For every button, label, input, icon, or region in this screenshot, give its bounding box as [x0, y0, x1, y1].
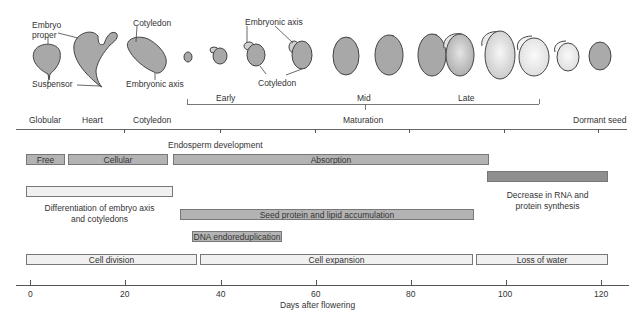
- x-tick: [221, 280, 222, 285]
- x-tick-label: 20: [120, 290, 129, 299]
- early-embryo-3: [292, 41, 312, 69]
- label-early: Early: [216, 94, 235, 103]
- bar-differentiation: [26, 186, 173, 197]
- mid-embryo-2: [375, 35, 403, 75]
- stage-tick: [315, 129, 316, 133]
- label-suspensor: Suspensor: [32, 80, 73, 89]
- late-embryo-2: [485, 31, 515, 79]
- x-tick: [411, 280, 412, 285]
- x-tick-label: 100: [498, 290, 512, 299]
- stage-globular: Globular: [29, 116, 61, 125]
- label-differentiation: Differentiation of embryo axis and cotyl…: [26, 203, 173, 225]
- x-tick-label: 120: [594, 290, 608, 299]
- label-decrease-rna-protein: Decrease in RNA and protein synthesis: [487, 190, 608, 212]
- embryo-illustrations: [0, 0, 642, 110]
- bar-seed-protein-lipid: Seed protein and lipid accumulation: [180, 209, 474, 220]
- bracket-right-end: [539, 99, 540, 104]
- bar-decrease-rna-protein: [487, 171, 608, 182]
- heart-embryo: [74, 32, 117, 87]
- endosperm-title: Endosperm development: [168, 141, 263, 150]
- early-embryo-small: [184, 52, 192, 62]
- mid-embryo-1: [333, 37, 359, 75]
- stage-tick: [504, 129, 505, 133]
- globular-embryo: [33, 44, 60, 80]
- label-mid: Mid: [357, 94, 371, 103]
- bar-cell-expansion: Cell expansion: [200, 254, 473, 265]
- stage-tick: [598, 129, 599, 133]
- early-embryo-2: [247, 44, 265, 66]
- label-embryonic-axis-1: Embryonic axis: [126, 80, 184, 89]
- stage-cotyledon: Cotyledon: [133, 116, 171, 125]
- early-embryo-1: [213, 48, 227, 64]
- x-tick: [125, 280, 126, 285]
- label-cotyledon-1: Cotyledon: [133, 19, 171, 28]
- bar-absorption: Absorption: [173, 154, 489, 165]
- cotyledon-embryo: [127, 37, 166, 73]
- x-tick-label: 0: [28, 290, 33, 299]
- label-cotyledon-2: Cotyledon: [258, 79, 296, 88]
- x-axis-line: [16, 285, 629, 286]
- stage-maturation: Maturation: [343, 116, 383, 125]
- stage-tick: [124, 129, 125, 133]
- x-tick: [30, 280, 31, 285]
- stage-tick: [409, 129, 410, 133]
- bar-dna-endoreduplication: DNA endoreduplication: [192, 231, 282, 242]
- label-embryo-proper: Embryo proper: [32, 20, 61, 40]
- stage-dormant-seed: Dormant seed: [573, 116, 626, 125]
- bar-cell-division: Cell division: [26, 254, 197, 265]
- late-embryo-3: [519, 38, 549, 76]
- bar-loss-of-water: Loss of water: [476, 254, 608, 265]
- bracket-left-end: [187, 99, 188, 104]
- x-tick-label: 80: [406, 290, 415, 299]
- x-tick-label: 40: [216, 290, 225, 299]
- bar-cellular: Cellular: [68, 154, 168, 165]
- bracket-mid-tick: [365, 104, 366, 110]
- mid-embryo-3: [418, 34, 446, 76]
- label-late: Late: [458, 94, 475, 103]
- late-embryo-4: [557, 43, 579, 71]
- bar-free: Free: [26, 154, 65, 165]
- x-tick: [601, 280, 602, 285]
- label-embryonic-axis-2: Embryonic axis: [245, 18, 303, 27]
- x-axis-title: Days after flowering: [280, 301, 355, 310]
- x-tick-label: 60: [311, 290, 320, 299]
- maturation-bracket: [187, 104, 539, 105]
- stage-tick: [220, 129, 221, 133]
- x-tick: [506, 280, 507, 285]
- dormant-embryo: [589, 42, 611, 70]
- stage-heart: Heart: [82, 116, 103, 125]
- late-embryo-1: [446, 34, 474, 76]
- stage-axis-line: [16, 129, 627, 130]
- x-tick: [316, 280, 317, 285]
